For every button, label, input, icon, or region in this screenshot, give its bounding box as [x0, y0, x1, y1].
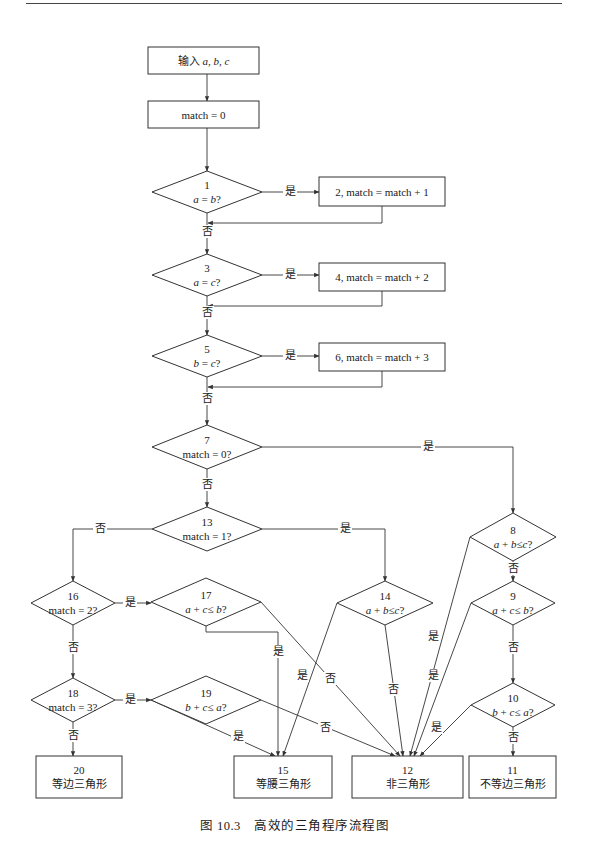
edge-label-no: 否: [508, 731, 519, 743]
node-label: 10: [508, 692, 520, 704]
node-label: 8: [510, 524, 516, 536]
node-label: a + c≤ b?: [492, 604, 533, 616]
process-input: 输入 a, b, c: [148, 47, 259, 74]
decision-d16: 16match = 2?: [31, 581, 115, 625]
edge-label-yes: 是: [423, 440, 434, 452]
decision-d3: 3a = c?: [152, 254, 262, 296]
node-label: 等边三角形: [52, 777, 107, 790]
node-label: a = b?: [193, 193, 221, 205]
node-label: 13: [202, 516, 214, 528]
decision-d8: 8a + b≤c?: [470, 513, 556, 561]
node-label: a + b≤c?: [366, 604, 405, 616]
process-t11: 11不等边三角形: [469, 756, 556, 798]
flow-nodes: 输入 a, b, cmatch = 01a = b?2, match = mat…: [31, 47, 556, 798]
process-p2: 2, match = match + 1: [319, 177, 445, 206]
node-label: 19: [201, 687, 213, 699]
flow-edge: [208, 291, 382, 306]
edge-label-yes: 是: [273, 645, 284, 657]
edge-label-yes: 是: [431, 721, 442, 733]
decision-d1: 1a = b?: [152, 171, 262, 213]
node-label: b + c≤ a?: [492, 706, 533, 718]
flow-edge: [208, 206, 382, 223]
decision-d13: 13match = 1?: [152, 507, 262, 551]
edge-label-yes: 是: [297, 669, 308, 681]
node-label: match = 3?: [49, 701, 98, 713]
decision-d9: 9a + c≤ b?: [471, 581, 555, 625]
node-label: 3: [204, 262, 210, 274]
node-label: 6, match = match + 3: [335, 351, 429, 363]
node-label: b = c?: [194, 357, 221, 369]
process-p4: 4, match = match + 2: [319, 263, 445, 291]
edge-label-no: 否: [202, 225, 213, 237]
node-label: a + c≤ b?: [185, 603, 226, 615]
decision-d19: 19b + c≤ a?: [151, 676, 261, 724]
edge-label-no: 否: [202, 478, 213, 490]
node-label: match = 0: [181, 109, 226, 121]
flow-edge: [262, 447, 513, 513]
edge-label-no: 否: [95, 522, 106, 534]
process-init: match = 0: [148, 101, 259, 128]
node-label: a = c?: [194, 276, 221, 288]
decision-d14: 14a + b≤c?: [337, 581, 433, 625]
node-label: 16: [68, 590, 80, 602]
edge-label-no: 否: [325, 672, 336, 684]
node-label: b + c≤ a?: [185, 701, 226, 713]
decision-d17: 17a + c≤ b?: [151, 578, 261, 626]
flow-edges: 是否是否是否是否否是否否否是是是是否是否是否是否否是: [66, 74, 520, 756]
node-label: 不等边三角形: [480, 777, 546, 790]
node-label: 4, match = match + 2: [335, 271, 429, 283]
node-label: match = 0?: [183, 448, 232, 460]
figure-caption: 图 10.3 高效的三角程序流程图: [0, 815, 589, 834]
node-label: 14: [380, 590, 392, 602]
edge-label-no: 否: [202, 392, 213, 404]
node-label: match = 1?: [183, 530, 232, 542]
edge-label-yes: 是: [428, 630, 439, 642]
edge-label-yes: 是: [125, 596, 136, 608]
edge-label-yes: 是: [428, 669, 439, 681]
edge-label-yes: 是: [125, 693, 136, 705]
node-label: 15: [278, 764, 290, 776]
decision-d18: 18match = 3?: [31, 678, 115, 722]
node-label: 11: [507, 764, 518, 776]
edge-label-no: 否: [202, 306, 213, 318]
flow-edge: [420, 705, 471, 756]
node-label: 7: [204, 434, 210, 446]
process-t15: 15等腰三角形: [234, 756, 332, 798]
node-label: 非三角形: [386, 778, 430, 790]
node-label: match = 2?: [49, 604, 98, 616]
edge-label-no: 否: [320, 721, 331, 733]
node-label: 等腰三角形: [256, 777, 311, 790]
process-t12: 12非三角形: [352, 756, 463, 798]
triangle-program-flowchart: 是否是否是否是否否是否否否是是是是否是否是否是否否是 输入 a, b, cmat…: [0, 0, 589, 856]
flow-edge: [208, 371, 382, 387]
edge-label-yes: 是: [340, 522, 351, 534]
edge-label-yes: 是: [285, 349, 296, 361]
edge-label-yes: 是: [285, 268, 296, 280]
process-t20: 20等边三角形: [36, 756, 122, 798]
flow-edge: [262, 529, 385, 581]
node-label: 2, match = match + 1: [335, 186, 429, 198]
edge-label-yes: 是: [285, 185, 296, 197]
edge-label-no: 否: [388, 683, 399, 695]
node-label: 17: [201, 589, 213, 601]
node-label: a + b≤c?: [494, 538, 533, 550]
flow-edge: [73, 529, 152, 581]
node-label: 20: [74, 764, 86, 776]
decision-d5: 5b = c?: [152, 335, 262, 377]
decision-d7: 7match = 0?: [152, 425, 262, 469]
process-p6: 6, match = match + 3: [319, 343, 445, 371]
edge-label-no: 否: [68, 641, 79, 653]
decision-d10: 10b + c≤ a?: [471, 683, 555, 727]
node-label: 1: [204, 179, 210, 191]
node-label: 5: [204, 343, 210, 355]
edge-label-no: 否: [508, 562, 519, 574]
node-label: 9: [510, 590, 516, 602]
node-label: 输入 a, b, c: [178, 54, 230, 67]
node-label: 12: [402, 764, 413, 776]
edge-label-no: 否: [508, 641, 519, 653]
edge-label-no: 否: [68, 729, 79, 741]
node-label: 18: [68, 687, 80, 699]
edge-label-yes: 是: [233, 730, 244, 742]
